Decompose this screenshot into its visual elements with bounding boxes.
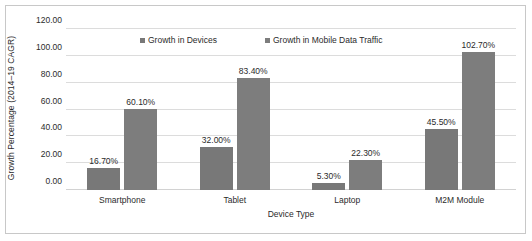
- y-tick-label: 60.00: [22, 96, 62, 105]
- bar: [200, 147, 233, 190]
- y-tick-label: 120.00: [22, 16, 62, 25]
- plot-area: 16.70%60.10%32.00%83.40%5.30%22.30%45.50…: [66, 29, 516, 190]
- bar-value-label: 83.40%: [229, 66, 278, 76]
- bar: [312, 183, 345, 190]
- bar-value-label: 102.70%: [454, 40, 503, 50]
- x-category-label: Laptop: [291, 194, 404, 206]
- x-category-label: M2M Module: [404, 194, 517, 206]
- y-tick-label: 80.00: [22, 69, 62, 78]
- bar-group: 16.70%60.10%: [66, 29, 179, 190]
- bar: [425, 129, 458, 190]
- x-category-label: Smartphone: [66, 194, 179, 206]
- bar-value-label: 45.50%: [417, 117, 466, 127]
- chart-legend: Growth in DevicesGrowth in Mobile Data T…: [140, 33, 382, 47]
- bar: [124, 109, 157, 190]
- bar-value-label: 16.70%: [79, 156, 128, 166]
- y-axis-tick-labels: 0.0020.0040.0060.0080.00100.00120.00: [20, 29, 62, 190]
- x-category-label: Tablet: [179, 194, 292, 206]
- legend-swatch-icon: [265, 38, 270, 43]
- bar-group: 45.50%102.70%: [404, 29, 517, 190]
- bar-value-label: 60.10%: [116, 97, 165, 107]
- bar: [237, 78, 270, 190]
- legend-label: Growth in Mobile Data Traffic: [273, 35, 382, 45]
- bar: [349, 160, 382, 190]
- bar-value-label: 5.30%: [304, 171, 353, 181]
- bar: [462, 52, 495, 190]
- y-tick-label: 20.00: [22, 150, 62, 159]
- y-tick-label: 0.00: [22, 177, 62, 186]
- x-axis-title: Device Type: [66, 208, 516, 220]
- y-tick-label: 100.00: [22, 42, 62, 51]
- y-axis-title: Growth Percentage (2014–19 CAGR): [4, 26, 18, 190]
- bar-group: 32.00%83.40%: [179, 29, 292, 190]
- bar-group: 5.30%22.30%: [291, 29, 404, 190]
- y-tick-label: 40.00: [22, 123, 62, 132]
- legend-swatch-icon: [140, 38, 145, 43]
- bar-chart: Growth Percentage (2014–19 CAGR) 0.0020.…: [0, 0, 532, 241]
- legend-item: Growth in Devices: [140, 35, 217, 45]
- legend-label: Growth in Devices: [148, 35, 217, 45]
- bar: [87, 168, 120, 190]
- bar-value-label: 22.30%: [341, 148, 390, 158]
- x-axis-category-labels: SmartphoneTabletLaptopM2M Module: [66, 194, 516, 208]
- legend-item: Growth in Mobile Data Traffic: [265, 35, 382, 45]
- bar-value-label: 32.00%: [192, 135, 241, 145]
